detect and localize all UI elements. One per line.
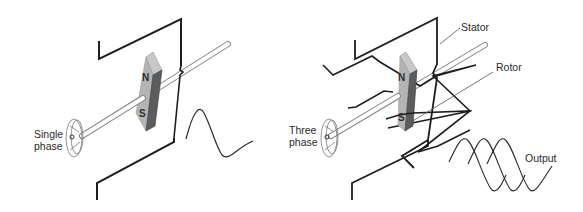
right-south-pole-label: S xyxy=(398,112,405,123)
left-south-pole-label: S xyxy=(139,108,146,119)
right-output-waves xyxy=(449,139,552,191)
left-stator-winding-bottom xyxy=(97,138,174,200)
left-panel xyxy=(66,19,253,200)
left-stator-winding-top xyxy=(99,19,181,66)
stator-leader-line xyxy=(440,28,460,44)
stator-callout-label: Stator xyxy=(461,21,489,33)
right-stator-winding-1-bottom xyxy=(352,140,428,200)
single-phase-label-line2: phase xyxy=(34,140,63,152)
three-phase-label-line1: Three xyxy=(289,124,316,136)
diagram-canvas xyxy=(0,0,583,212)
right-panel xyxy=(321,18,552,200)
rotor-callout-label: Rotor xyxy=(496,61,522,73)
output-callout-label: Output xyxy=(525,152,557,164)
left-output-sine xyxy=(186,109,253,156)
three-phase-label-line2: phase xyxy=(289,136,318,148)
left-magnet xyxy=(136,52,162,131)
generator-diagram: Single phase N S Three phase N S Stator … xyxy=(0,0,583,212)
single-phase-label-line1: Single xyxy=(34,128,63,140)
left-north-pole-label: N xyxy=(142,72,149,83)
right-north-pole-label: N xyxy=(398,72,405,83)
right-stator-winding-1 xyxy=(355,18,437,168)
